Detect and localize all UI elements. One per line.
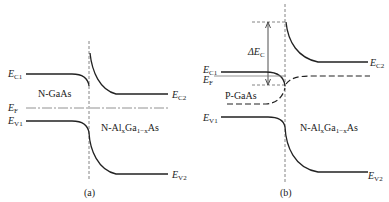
- label-ev1-a: EV1: [7, 115, 23, 128]
- region-label-n-gaas: N-GaAs: [38, 88, 71, 99]
- label-ev1-b: EV1: [202, 112, 218, 125]
- figure-a: EC1 EC2 EF EV1 EV2 N-GaAs N-AlxGa1−xAs (…: [7, 41, 187, 199]
- region-label-p-gaas: P-GaAs: [225, 90, 257, 101]
- ec2-band-a: [90, 53, 168, 94]
- label-ec1-a: EC1: [7, 68, 23, 81]
- label-ev2-b: EV2: [367, 170, 383, 183]
- label-ec2-a: EC2: [171, 89, 187, 102]
- ec1-band-b: [221, 72, 285, 86]
- label-delta-ec: ΔEC: [247, 46, 265, 59]
- ec2-band-b: [286, 22, 368, 62]
- label-ef-a: EF: [7, 102, 18, 115]
- label-ec2-b: EC2: [369, 57, 385, 70]
- region-label-n-algaas-a: N-AlxGa1−xAs: [101, 122, 159, 135]
- region-label-n-algaas-b: N-AlxGa1−xAs: [300, 122, 358, 135]
- band-diagram: EC1 EC2 EF EV1 EV2 N-GaAs N-AlxGa1−xAs (…: [0, 0, 389, 202]
- label-ev2-a: EV2: [171, 169, 187, 182]
- ec1-band-a: [26, 74, 89, 86]
- figure-b: EC1 EF ΔEC P-GaAs EV1 EC2 EV2 N-AlxGa1−x…: [202, 4, 385, 199]
- caption-b: (b): [280, 187, 292, 199]
- caption-a: (a): [84, 187, 95, 199]
- dashed-level-right: [286, 76, 370, 84]
